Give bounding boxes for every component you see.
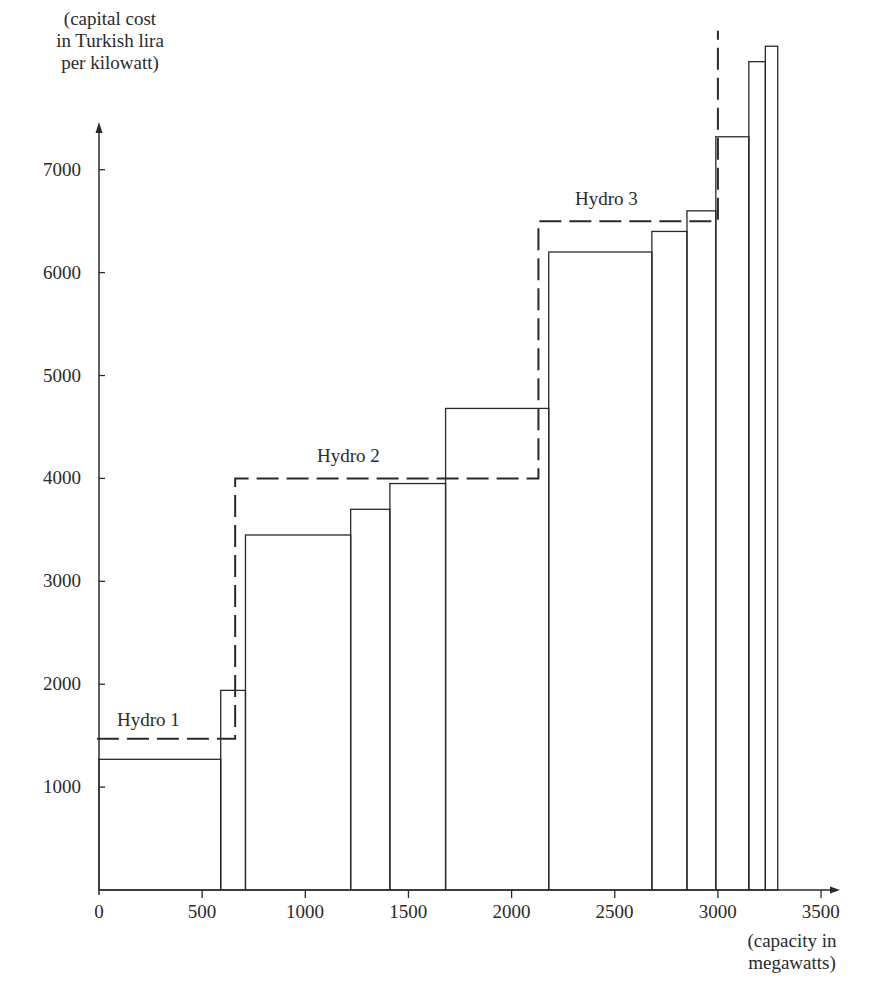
y-tick-label: 6000 (43, 262, 81, 284)
y-tick-label: 5000 (43, 365, 81, 387)
y-tick-label: 1000 (43, 776, 81, 798)
bar-1 (99, 759, 221, 890)
x-tick-label: 3000 (699, 901, 737, 923)
x-tick-label: 2500 (596, 901, 634, 923)
y-axis-label-line-1: (capital cost (30, 8, 190, 30)
y-axis-label-line-2: in Turkish lira (30, 30, 190, 52)
annotation-hydro-3: Hydro 3 (575, 188, 638, 210)
bar-9 (687, 211, 716, 890)
bar-6 (446, 408, 549, 890)
y-tick-label: 7000 (43, 159, 81, 181)
x-tick-label: 2000 (492, 901, 530, 923)
bar-4 (351, 509, 390, 890)
bar-2 (221, 690, 246, 890)
hydro-dashed-step-line (97, 31, 718, 739)
x-tick-label: 1500 (389, 901, 427, 923)
y-axis-label-line-3: per kilowatt) (30, 52, 190, 74)
x-axis-label: (capacity in megawatts) (722, 930, 862, 974)
bar-12 (765, 46, 777, 890)
annotation-hydro-1: Hydro 1 (117, 709, 180, 731)
bar-5 (390, 484, 446, 890)
bar-7 (549, 252, 652, 890)
bar-3 (245, 535, 350, 890)
x-tick-label: 1000 (286, 901, 324, 923)
x-tick-label: 500 (188, 901, 217, 923)
bar-8 (652, 231, 687, 890)
y-tick-label: 3000 (43, 570, 81, 592)
y-axis-label: (capital cost in Turkish lira per kilowa… (30, 8, 190, 74)
x-tick-label: 0 (94, 901, 104, 923)
x-axis-label-line-1: (capacity in (722, 930, 862, 952)
x-tick-label: 3500 (802, 901, 840, 923)
x-axis-arrow-icon (830, 887, 840, 894)
y-tick-label: 4000 (43, 467, 81, 489)
y-tick-label: 2000 (43, 673, 81, 695)
annotation-hydro-2: Hydro 2 (317, 445, 380, 467)
y-axis-arrow-icon (96, 122, 103, 133)
capacity-cost-chart (0, 0, 876, 1005)
bar-11 (749, 62, 766, 890)
bar-10 (716, 137, 749, 890)
x-axis-label-line-2: megawatts) (722, 952, 862, 974)
